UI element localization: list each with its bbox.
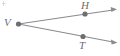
point-label-t: T: [79, 40, 85, 51]
ray-vh-line: [19, 10, 114, 24]
ray-v-through-h: [19, 7, 118, 24]
ray-vh-arrowhead-icon: [111, 7, 117, 12]
point-label-v: V: [4, 17, 11, 28]
geometry-figure: V H T: [0, 0, 120, 56]
ray-vt-line: [19, 24, 114, 42]
ray-vt-arrowhead-icon: [111, 40, 118, 45]
geometry-canvas: [0, 0, 120, 56]
scan-speck-icon: [2, 1, 6, 6]
point-label-h: H: [81, 0, 89, 11]
point-marker-h: [82, 11, 87, 16]
point-marker-v: [16, 21, 21, 26]
ray-v-through-t: [19, 24, 118, 45]
